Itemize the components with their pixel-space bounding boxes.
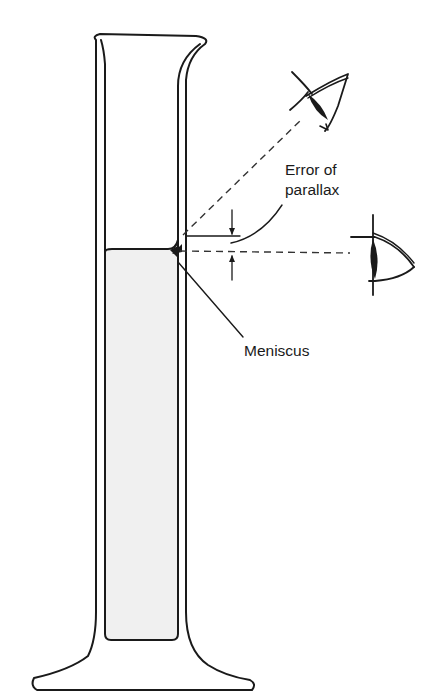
graduated-cylinder: [33, 34, 255, 690]
meniscus-label: Meniscus: [244, 342, 310, 359]
parallax-diagram: Error of parallax Meniscus: [0, 0, 440, 700]
error-of-parallax-label-line2: parallax: [285, 181, 340, 198]
meniscus-leader: [178, 262, 243, 337]
parallax-dimension: [186, 205, 282, 280]
eye-level-icon: [351, 215, 414, 295]
sightline-level: [180, 251, 350, 253]
liquid-column: [105, 244, 178, 640]
error-of-parallax-label-line1: Error of: [285, 161, 337, 178]
